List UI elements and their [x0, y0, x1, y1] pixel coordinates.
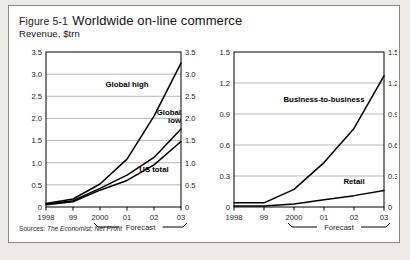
y-tick-label-right: 0.5 — [185, 181, 196, 190]
y-tick-label-right: 0.6 — [388, 141, 397, 150]
y-tick-label-left: 1.5 — [31, 136, 42, 145]
figure-heading: Figure 5-1 Worldwide on-line commerce — [19, 11, 389, 29]
y-tick-label-right: 1.5 — [388, 48, 397, 57]
y-tick-label-right: 0 — [185, 203, 189, 212]
x-tick-label: 02 — [350, 213, 358, 222]
y-tick-label-left: 3.5 — [31, 48, 42, 57]
y-tick-label-left: 0.6 — [219, 141, 230, 150]
x-tick-label: 99 — [69, 213, 77, 222]
y-tick-label-left: 1.0 — [31, 159, 42, 168]
y-tick-label-left: 0.9 — [219, 110, 230, 119]
y-tick-label-left: 2.5 — [31, 92, 42, 101]
x-tick-label: 03 — [177, 213, 185, 222]
forecast-label: Forecast — [126, 223, 156, 232]
y-tick-label-right: 2.5 — [185, 92, 196, 101]
sources-label: Sources: — [19, 225, 45, 232]
series-label: US total — [139, 165, 168, 174]
y-tick-label-right: 1.2 — [388, 79, 397, 88]
y-tick-label-right: 0.3 — [388, 172, 397, 181]
x-tick-label: 2000 — [286, 213, 303, 222]
x-tick-label: 2000 — [92, 213, 109, 222]
y-tick-label-left: 1.5 — [219, 48, 230, 57]
y-tick-label-right: 1.0 — [185, 159, 196, 168]
figure-number: Figure 5-1 — [19, 15, 68, 27]
y-tick-label-right: 1.5 — [185, 136, 196, 145]
figure-subtitle: Revenue, $trn — [19, 28, 80, 39]
y-tick-label-left: 0 — [226, 203, 230, 212]
y-tick-label-left: 1.2 — [219, 79, 230, 88]
x-tick-label: 01 — [320, 213, 328, 222]
y-tick-label-right: 0.9 — [388, 110, 397, 119]
plot-frame — [46, 52, 181, 207]
x-tick-label: 03 — [380, 213, 388, 222]
figure-title: Worldwide on-line commerce — [72, 13, 242, 28]
x-tick-label: 1998 — [226, 213, 243, 222]
forecast-label: Forecast — [324, 223, 354, 232]
series-line — [234, 190, 384, 206]
x-tick-label: 01 — [123, 213, 131, 222]
y-tick-label-right: 3.0 — [185, 70, 196, 79]
y-tick-label-right: 2.0 — [185, 114, 196, 123]
y-tick-label-left: 0.5 — [31, 181, 42, 190]
chart-right-svg: 000.30.30.60.60.90.91.21.21.51.519989920… — [201, 44, 397, 234]
x-tick-label: 99 — [260, 213, 268, 222]
series-label: Retail — [343, 177, 364, 186]
sources-value: The Economist; Net Profit — [47, 225, 122, 232]
y-tick-label-left: 0.3 — [219, 172, 230, 181]
chart-left-svg: 000.50.51.01.01.51.52.02.02.52.53.03.03.… — [13, 44, 201, 234]
series-label: Globallow — [157, 108, 182, 126]
y-tick-label-left: 2.0 — [31, 114, 42, 123]
y-tick-label-right: 0 — [388, 203, 392, 212]
figure-frame: Figure 5-1 Worldwide on-line commerce Re… — [8, 5, 400, 243]
series-label: Business-to-business — [283, 95, 365, 104]
x-tick-label: 1998 — [38, 213, 55, 222]
y-tick-label-left: 0 — [38, 203, 42, 212]
sources-line: Sources: The Economist; Net Profit — [19, 225, 122, 232]
y-tick-label-left: 3.0 — [31, 70, 42, 79]
series-label: Global high — [106, 80, 149, 89]
y-tick-label-right: 3.5 — [185, 48, 196, 57]
chart-right-b2b-retail: 000.30.30.60.60.90.91.21.21.51.519989920… — [201, 44, 397, 234]
chart-left-worldwide-commerce: 000.50.51.01.01.51.52.02.02.52.53.03.03.… — [13, 44, 201, 234]
x-tick-label: 02 — [150, 213, 158, 222]
